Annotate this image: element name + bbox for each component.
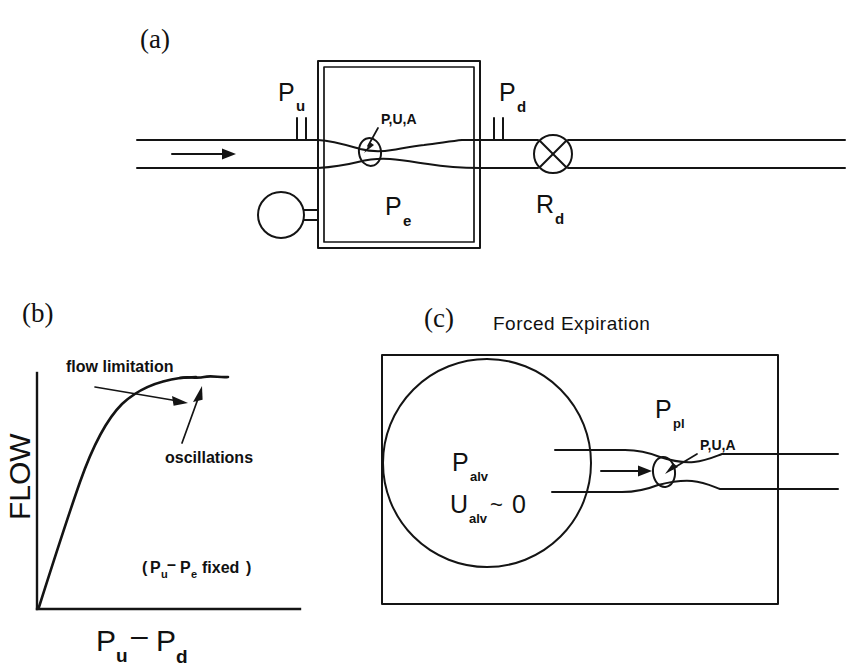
condition-minus: – — [167, 556, 176, 573]
x-axis-p1-sub: u — [116, 645, 128, 666]
x-axis-minus: – — [131, 619, 148, 652]
label-palv-subscript: alv — [470, 469, 489, 484]
figure-root: (a) — [0, 0, 851, 670]
label-throat-variables-c-text: P,U,A — [700, 437, 736, 453]
pressure-tap-upstream — [297, 118, 306, 140]
oscillation-segment — [180, 376, 228, 378]
label-pd-symbol: P — [499, 78, 516, 106]
label-rd-symbol: R — [536, 190, 554, 218]
panel-c: (c) Forced Expiration — [382, 303, 838, 604]
label-ppl-symbol: P — [655, 395, 672, 423]
condition-p2-sub: e — [191, 568, 197, 580]
label-ualv-value: 0 — [512, 490, 526, 518]
label-palv: P alv — [452, 448, 489, 484]
panel-c-title: Forced Expiration — [493, 313, 650, 334]
panel-a-letter: (a) — [140, 24, 170, 54]
label-ualv-symbol: U — [450, 490, 468, 518]
panel-c-letter: (c) — [424, 303, 454, 333]
label-pd-subscript: d — [517, 98, 526, 115]
x-axis-p2: P — [156, 624, 176, 657]
label-ualv: U alv ~ 0 — [450, 490, 526, 526]
label-ualv-subscript: alv — [469, 511, 488, 526]
condition-word: fixed — [202, 559, 239, 576]
label-pe-symbol: P — [385, 192, 402, 220]
alveolus-circle — [383, 359, 591, 567]
downstream-resistance-valve — [534, 135, 572, 173]
label-rd: R d — [536, 190, 564, 227]
label-pd: P d — [499, 78, 526, 115]
condition-note: ( P u – P e fixed ) — [142, 556, 251, 580]
x-axis-label: P u – P d — [96, 619, 188, 667]
x-axis-p1: P — [96, 624, 116, 657]
label-ualv-approx: ~ — [490, 492, 503, 517]
label-ppl-subscript: pl — [673, 416, 685, 431]
label-palv-symbol: P — [452, 448, 469, 476]
flow-limiting-segment — [658, 454, 838, 489]
annotation-oscillations-text: oscillations — [165, 449, 253, 466]
pressure-tap-downstream — [494, 118, 503, 140]
flow-direction-arrow — [172, 149, 236, 160]
label-pu-subscript: u — [296, 97, 305, 114]
annotation-oscillations: oscillations — [165, 386, 253, 466]
label-rd-subscript: d — [555, 210, 564, 227]
flow-direction-arrow-c — [601, 466, 652, 477]
label-pe: P e — [385, 192, 411, 229]
condition-p1: P — [150, 559, 161, 576]
x-axis-p2-sub: d — [176, 646, 188, 667]
panel-b-letter: (b) — [22, 298, 53, 328]
collapsible-segment — [318, 140, 480, 168]
condition-close-paren: ) — [246, 559, 251, 576]
label-pu: P u — [278, 78, 305, 114]
label-ppl: P pl — [655, 395, 685, 431]
panel-a: (a) — [137, 24, 845, 248]
annotation-flow-limitation-text: flow limitation — [66, 358, 174, 375]
thorax-box — [382, 355, 778, 604]
chamber-pressure-source — [258, 192, 318, 238]
label-throat-variables-a-text: P,U,A — [381, 111, 417, 127]
panel-b: (b) flow limitation oscillations — [3, 298, 300, 667]
label-pu-symbol: P — [278, 78, 295, 106]
figure-canvas: (a) — [0, 0, 851, 670]
label-throat-variables-c: P,U,A — [665, 437, 736, 474]
label-pe-subscript: e — [403, 212, 411, 229]
condition-p2: P — [180, 559, 191, 576]
y-axis-label: FLOW — [3, 433, 36, 520]
condition-open-paren: ( — [142, 559, 148, 576]
